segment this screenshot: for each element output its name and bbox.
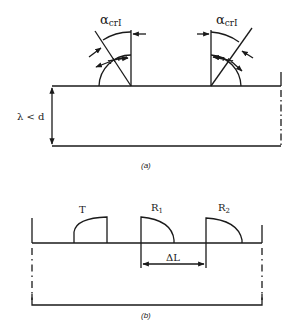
receiver-2-label: R2 [218,202,230,215]
angle-label-right: αcrI [216,12,238,28]
thickness-label: λ < d [17,111,45,122]
angle-label-left: αcrI [100,12,122,28]
caption-b: (b) [141,311,151,320]
panel-b [32,217,262,305]
spacing-label: ΔL [166,252,180,263]
diagram-figure: αcrI αcrI λ < d (a) T R1 R2 ΔL (b) [0,0,294,329]
plate-b [32,218,262,305]
right-angle-probe [197,28,253,86]
receiver-1-probe [141,217,174,243]
plate-a [52,72,281,146]
receiver-2-probe [206,218,242,243]
panel-a [52,28,281,146]
transmitter-label: T [79,204,86,215]
caption-a: (a) [141,161,151,170]
transmitter-probe [74,217,107,243]
left-angle-probe [89,30,146,86]
receiver-1-label: R1 [151,202,163,215]
